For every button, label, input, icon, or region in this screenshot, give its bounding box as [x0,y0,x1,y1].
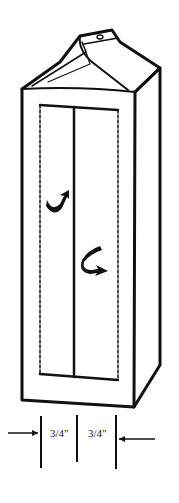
curved-arrow-up-icon [46,190,69,213]
arrow-left-icon [119,436,125,442]
carton-top [22,30,160,92]
arrow-right-icon [32,430,38,436]
curved-arrow-down-icon [81,246,108,276]
dimension-label-left: 3/4" [50,427,69,439]
spout-hole [97,35,103,39]
dimension-label-right: 3/4" [88,427,107,439]
cut-outline [40,105,118,380]
carton-side-face [134,68,160,407]
dimension-markers [8,415,155,469]
